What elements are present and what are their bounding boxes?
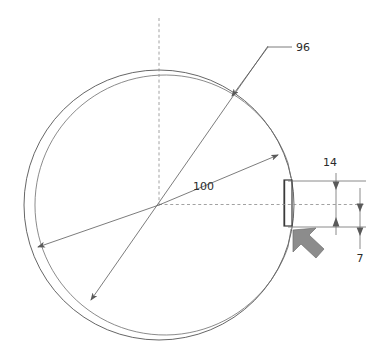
dimension-7-arrow-bottom [357, 228, 364, 237]
radius-100-leader [159, 155, 278, 205]
inner-arc-bottom-join [288, 229, 291, 247]
reference-96-label: 96 [296, 41, 310, 54]
lower-left-radius-leader [38, 205, 159, 247]
drawing-svg: 100 96 14 7 [0, 0, 388, 364]
technical-drawing-canvas: 100 96 14 7 [0, 0, 388, 364]
inner-wall-arc [35, 75, 288, 335]
dimension-14-label: 14 [323, 156, 337, 169]
dimension-14-arrow-top [333, 182, 340, 191]
radius-100-label: 100 [193, 180, 214, 193]
dimension-7-arrow-top [357, 204, 364, 213]
inner-arc-top-join [288, 163, 291, 178]
view-direction-arrow [293, 228, 324, 258]
dimension-7-label: 7 [357, 252, 364, 265]
dimension-14-arrow-bottom [333, 217, 340, 227]
